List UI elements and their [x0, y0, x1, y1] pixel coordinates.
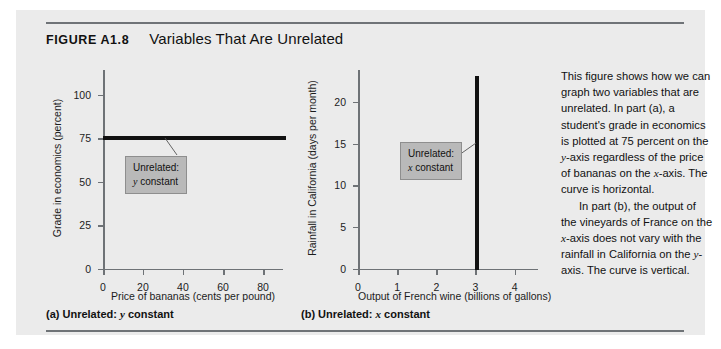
subcaption-b-prefix: (b) Unrelated:: [301, 308, 376, 320]
figure-number: FIGURE A1.8: [46, 33, 129, 47]
explanatory-paragraph-2: In part (b), the output of the vineyards…: [561, 198, 713, 279]
chart-b-xtick: 4: [515, 270, 517, 275]
chart-panel-b: Rainfall in California (days per month) …: [301, 68, 546, 298]
chart-a-plot-area: 0 25 50 75 100 0 20 40: [103, 70, 283, 270]
explanatory-p1-part1: This figure shows how we can graph two v…: [561, 70, 710, 147]
chart-a-ytick-label: 75: [79, 132, 91, 144]
explanatory-p2-part2: -axis does not vary with the rainfall in…: [561, 232, 702, 260]
chart-a-annotation: Unrelated: y constant: [125, 156, 187, 194]
subcaption-b-suffix: constant: [381, 308, 430, 320]
chart-a-xtick: 60: [223, 270, 225, 275]
chart-a-xtick: 0: [103, 270, 105, 275]
chart-a-ytick-label: 50: [79, 176, 91, 188]
chart-b-ytick-label: 15: [334, 138, 346, 150]
figure-title: Variables That Are Unrelated: [149, 30, 343, 47]
chart-b-annotation: Unrelated: x constant: [400, 142, 462, 180]
bottom-divider: [46, 330, 684, 332]
chart-b-annotation-line1: Unrelated:: [408, 148, 454, 159]
chart-panel-a: Grade in economics (percent) 0 25 50 75 …: [46, 68, 291, 298]
chart-a-x-axis-label: Price of bananas (cents per pound): [103, 290, 283, 302]
subcaption-a-prefix: (a) Unrelated:: [46, 308, 120, 320]
explanatory-text: This figure shows how we can graph two v…: [561, 68, 713, 279]
chart-b-ytick-label: 10: [334, 179, 346, 191]
chart-b-xtick: 3: [475, 270, 477, 275]
subcaption-a-suffix: constant: [125, 308, 174, 320]
subcaption-a: (a) Unrelated: y constant: [46, 308, 174, 320]
chart-b-xtick: 2: [436, 270, 438, 275]
chart-a-ytick-label: 0: [85, 263, 91, 275]
chart-a-ytick-label: 25: [79, 219, 91, 231]
chart-a-y-axis-label: Grade in economics (percent): [49, 68, 65, 268]
chart-a-annotation-line2: constant: [137, 176, 178, 187]
chart-a-annotation-line1: Unrelated:: [133, 162, 179, 173]
explanatory-paragraph-1: This figure shows how we can graph two v…: [561, 68, 713, 198]
chart-b-annotation-line2: constant: [412, 162, 453, 173]
chart-b-y-axis-label: Rainfall in California (days per month): [304, 68, 320, 268]
top-divider: [46, 22, 684, 24]
figure-panel: FIGURE A1.8 Variables That Are Unrelated…: [16, 10, 705, 335]
figure-header: FIGURE A1.8 Variables That Are Unrelated: [46, 30, 343, 47]
chart-b-plot-area: 0 5 10 15 20 0 1 2: [358, 70, 538, 270]
chart-a-ytick-label: 100: [73, 89, 91, 101]
subcaption-b: (b) Unrelated: x constant: [301, 308, 430, 320]
chart-b-xtick: 1: [397, 270, 399, 275]
chart-b-ytick-label: 0: [340, 263, 346, 275]
chart-b-ytick-label: 5: [340, 221, 346, 233]
explanatory-p2-part1: In part (b), the output of the vineyards…: [561, 200, 712, 228]
chart-a-xtick: 40: [183, 270, 185, 275]
chart-b-xtick: 0: [358, 270, 360, 275]
chart-b-x-axis-label: Output of French wine (billions of gallo…: [358, 290, 538, 302]
chart-a-xtick: 20: [143, 270, 145, 275]
chart-a-xtick: 80: [263, 270, 265, 275]
chart-b-ytick-label: 20: [334, 96, 346, 108]
